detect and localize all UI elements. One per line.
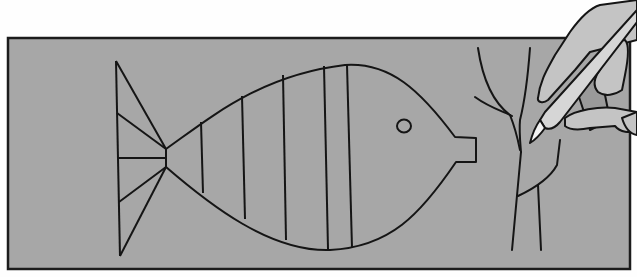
gray-board [8, 38, 630, 269]
drawing-canvas [0, 0, 637, 277]
illustration [0, 0, 637, 277]
hand-holding-pen [530, 0, 637, 143]
